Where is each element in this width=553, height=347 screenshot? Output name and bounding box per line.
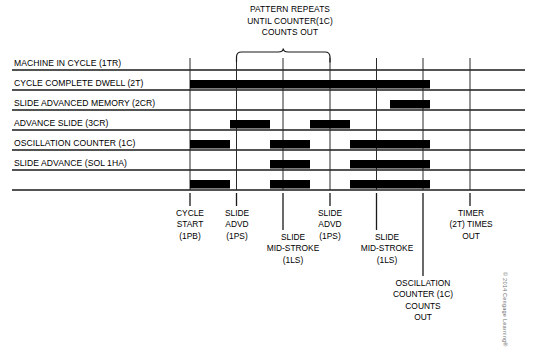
signal-bar	[310, 120, 350, 129]
signal-bar	[270, 160, 310, 169]
signal-bar	[190, 80, 430, 89]
event-tick-group	[190, 193, 470, 276]
signal-bar	[350, 140, 430, 149]
signal-bar	[390, 100, 430, 109]
signal-bar	[270, 140, 310, 149]
signal-bar	[230, 120, 270, 129]
signal-bar	[190, 140, 230, 149]
signal-bar	[350, 160, 430, 169]
signal-bar	[190, 180, 230, 189]
copyright-credit: © 2014 Cengage Learning®	[502, 272, 508, 347]
signal-bar	[350, 180, 430, 189]
signal-bar	[270, 180, 310, 189]
signal-bar-group	[190, 80, 430, 189]
